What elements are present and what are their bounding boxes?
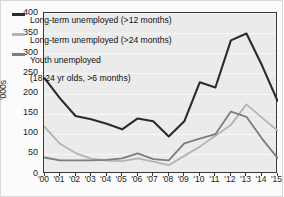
legend-item-sublabel: (18-24 yr olds, >6 months): [30, 73, 131, 83]
x-axis-tick-mark: [199, 173, 200, 176]
legend-item: Long-term unemployed (>24 months): [12, 29, 172, 47]
series-line: [45, 112, 278, 161]
legend-swatch-icon: [12, 13, 25, 16]
chart-legend: Long-term unemployed (>12 months) Long-t…: [9, 7, 175, 90]
legend-item-label: Long-term unemployed (>12 months): [30, 15, 172, 25]
x-axis-tick-mark: [121, 173, 122, 176]
legend-item-label: Youth unemployed: [30, 55, 101, 65]
legend-item: Youth unemployed (18-24 yr olds, >6 mont…: [12, 49, 172, 85]
x-axis-tick-mark: [75, 173, 76, 176]
x-axis-tick-mark: [106, 173, 107, 176]
y-axis-tick-label: 100: [4, 128, 38, 137]
x-axis-tick-mark: [230, 173, 231, 176]
x-axis-tick-mark: [168, 173, 169, 176]
x-axis-tick-labels: '00'01'02'03'04'05'06'07'08'09'10'11'12'…: [43, 175, 277, 191]
x-axis-tick-mark: [261, 173, 262, 176]
legend-swatch-icon: [12, 33, 25, 36]
y-axis-tick-label: 0: [4, 169, 38, 178]
x-axis-tick-mark: [59, 173, 60, 176]
x-axis-tick-mark: [44, 173, 45, 176]
x-axis-tick-mark: [214, 173, 215, 176]
legend-item: Long-term unemployed (>12 months): [12, 9, 172, 27]
series-line: [45, 104, 278, 165]
x-axis-tick-mark: [90, 173, 91, 176]
chart-figure: 400350300250200150100500 '000s '00'01'02…: [0, 0, 283, 197]
x-axis-tick-mark: [152, 173, 153, 176]
y-axis-title: '000s: [0, 80, 8, 100]
x-axis-tick-label: '15: [268, 175, 284, 184]
x-axis-tick-mark: [245, 173, 246, 176]
legend-swatch-icon: [12, 53, 25, 56]
y-axis-tick-label: 150: [4, 108, 38, 117]
y-axis-tick-label: 50: [4, 148, 38, 157]
x-axis-tick-mark: [137, 173, 138, 176]
x-axis-tick-mark: [183, 173, 184, 176]
legend-item-label: Long-term unemployed (>24 months): [30, 35, 172, 45]
x-axis-tick-mark: [277, 173, 278, 176]
